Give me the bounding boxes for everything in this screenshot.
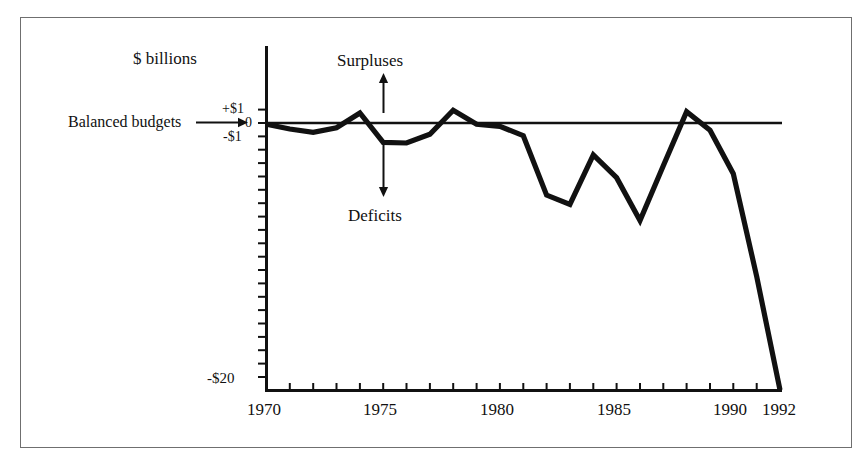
y-tick-label-zero: 0 [245, 116, 252, 130]
surpluses-label: Surpluses [337, 52, 403, 69]
x-tick-label-1975: 1975 [363, 400, 397, 420]
x-tick-label-1970: 1970 [247, 400, 281, 420]
balanced-budgets-label: Balanced budgets [68, 114, 181, 130]
x-tick-label-1980: 1980 [480, 400, 514, 420]
x-axis-ticks [267, 383, 781, 390]
surpluses-arrow-icon [379, 73, 388, 113]
y-tick-label-plus-1: +$1 [222, 102, 244, 116]
x-tick-label-1985: 1985 [597, 400, 631, 420]
figure-container: $ billions Balanced budgets +$1 0 -$1 -$… [0, 0, 863, 466]
y-axis-title: $ billions [133, 50, 197, 67]
deficits-arrow-icon [379, 142, 388, 197]
x-tick-label-1990: 1990 [713, 400, 747, 420]
budget-balance-line [267, 110, 781, 390]
y-tick-label-minus-1: -$1 [223, 130, 242, 144]
chart-plot [0, 0, 863, 466]
deficits-label: Deficits [348, 207, 402, 224]
x-tick-label-1992: 1992 [762, 400, 796, 420]
balanced-budgets-arrow-icon [196, 118, 248, 127]
y-tick-label-minus-20: -$20 [207, 371, 235, 386]
y-axis-ticks [258, 110, 266, 377]
